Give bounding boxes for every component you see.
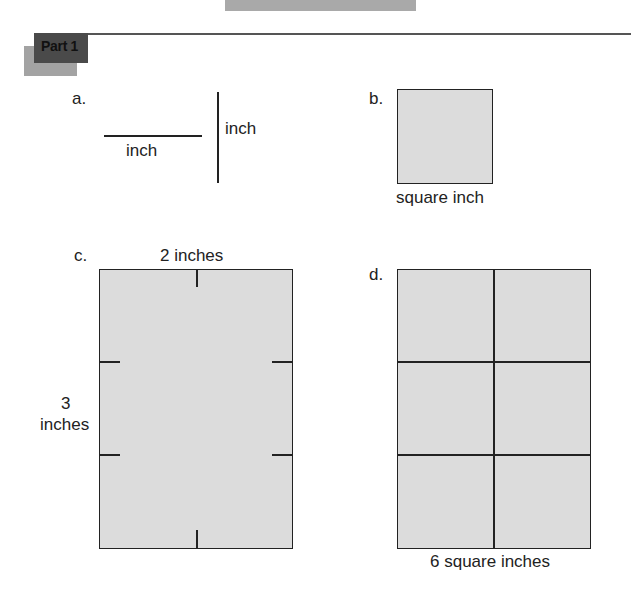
square-inch-shape xyxy=(397,89,493,184)
width-label: 2 inches xyxy=(160,246,223,266)
item-a-letter: a. xyxy=(72,89,86,109)
item-c-letter: c. xyxy=(74,246,87,266)
part-label: Part 1 xyxy=(41,38,78,54)
top-tick xyxy=(196,269,198,287)
left-tick-1 xyxy=(99,361,120,363)
top-tab-decoration xyxy=(225,0,416,11)
right-tick-1 xyxy=(272,361,293,363)
height-label-unit: inches xyxy=(40,415,89,435)
rectangle-shape xyxy=(99,269,293,549)
horizontal-inch-segment xyxy=(104,135,202,137)
left-tick-2 xyxy=(99,454,120,456)
item-b-letter: b. xyxy=(369,89,383,109)
horizontal-inch-label: inch xyxy=(126,141,157,161)
grid-horizontal-line-1 xyxy=(397,361,591,363)
grid-horizontal-line-2 xyxy=(397,454,591,456)
vertical-inch-label: inch xyxy=(225,119,256,139)
header-rule xyxy=(88,33,631,35)
item-d-letter: d. xyxy=(369,265,383,285)
bottom-tick xyxy=(196,530,198,548)
right-tick-2 xyxy=(272,454,293,456)
grid-vertical-line xyxy=(493,269,495,549)
grid-caption: 6 square inches xyxy=(430,552,550,572)
square-inch-caption: square inch xyxy=(396,188,484,208)
height-label-number: 3 xyxy=(61,394,70,414)
vertical-inch-segment xyxy=(217,92,219,183)
